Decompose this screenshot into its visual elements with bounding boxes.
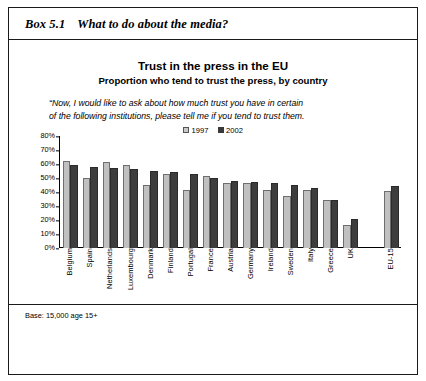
x-axis-label-cell: UK [341, 248, 361, 304]
bar-1997 [203, 176, 211, 247]
bar-1997 [63, 161, 71, 248]
bar-2002 [90, 167, 98, 248]
bar-1997 [243, 183, 251, 247]
bar-group [341, 136, 361, 248]
bar-group [200, 136, 220, 248]
chart-container: Trust in the press in the EU Proportion … [9, 59, 417, 304]
bar-group-spacer [361, 136, 381, 248]
x-axis-label-cell: Ireland [261, 248, 281, 304]
bar-group [261, 136, 281, 248]
bar-2002 [110, 168, 118, 248]
bar-1997 [83, 178, 91, 248]
x-axis-label-cell: Sweden [281, 248, 301, 304]
x-axis-label: Sweden [287, 248, 294, 275]
legend-label-1997: 1997 [192, 126, 209, 135]
bar-group [100, 136, 120, 248]
box-label: Box 5.1 [25, 17, 65, 31]
bar-2002 [311, 188, 319, 248]
x-axis-label: UK [347, 248, 354, 258]
x-axis-label: Spain [86, 248, 93, 267]
x-axis-label-cell: Netherlands [100, 248, 120, 304]
x-axis-label-cell: Belgium [60, 248, 80, 304]
bar-2002 [351, 219, 359, 248]
bar-2002 [271, 183, 279, 248]
y-axis-tick: 40% [40, 188, 55, 195]
x-axis-labels: BelgiumSpainNetherlandsLuxembourgDenmark… [60, 248, 401, 304]
box-heading: What to do about the media? [77, 17, 228, 31]
x-axis-label-cell: Denmark [140, 248, 160, 304]
bar-group [60, 136, 80, 248]
x-axis-label: Netherlands [106, 248, 113, 289]
quote-line-1: “Now, I would like to ask about how much… [49, 97, 395, 109]
x-axis-label-cell: Austria [221, 248, 241, 304]
y-axis-tick: 30% [40, 202, 55, 209]
bar-1997 [263, 190, 271, 247]
x-axis-label: Ireland [267, 248, 274, 271]
bar-1997 [123, 165, 131, 248]
bar-2002 [130, 169, 138, 247]
y-axis-tick: 0% [44, 244, 55, 251]
x-axis-label-cell: EU-15 [381, 248, 401, 304]
y-axis: 80%70%60%50%40%30%20%10%0% [33, 136, 59, 248]
x-axis-label-cell: Germany [241, 248, 261, 304]
bar-1997 [323, 200, 331, 248]
bar-1997 [283, 196, 291, 248]
x-axis-label: Austria [227, 248, 234, 272]
bar-2002 [391, 186, 399, 248]
bar-group [321, 136, 341, 248]
bar-2002 [291, 185, 299, 248]
x-axis-label-cell: Finland [160, 248, 180, 304]
bar-2002 [190, 174, 198, 248]
bar-group [180, 136, 200, 248]
x-axis-label: Greece [327, 248, 334, 273]
page-root: Box 5.1What to do about the media? Trust… [0, 0, 426, 381]
x-axis-label-cell: Italy [301, 248, 321, 304]
legend-item-1997: 1997 [183, 126, 208, 135]
x-axis-label: Denmark [147, 248, 154, 279]
survey-question-quote: “Now, I would like to ask about how much… [49, 97, 395, 122]
bar-2002 [170, 172, 178, 248]
x-axis-label: EU-15 [387, 248, 394, 269]
y-axis-tick: 80% [40, 132, 55, 139]
bar-2002 [150, 171, 158, 248]
y-axis-tick: 70% [40, 146, 55, 153]
x-axis-label-cell [361, 248, 381, 304]
chart-subtitle: Proportion who tend to trust the press, … [15, 75, 411, 87]
bar-2002 [251, 182, 259, 248]
x-axis-label-cell: France [200, 248, 220, 304]
bar-1997 [343, 225, 351, 247]
box-container: Box 5.1What to do about the media? Trust… [8, 7, 418, 375]
x-axis-label: Portugal [187, 248, 194, 276]
y-axis-tick: 10% [40, 230, 55, 237]
bar-1997 [163, 174, 171, 248]
bar-1997 [223, 183, 231, 248]
chart-title: Trust in the press in the EU [15, 59, 411, 73]
bar-1997 [183, 190, 191, 247]
x-axis-label: Finland [167, 248, 174, 273]
bar-1997 [384, 191, 392, 248]
bar-group [241, 136, 261, 248]
box-header: Box 5.1What to do about the media? [9, 8, 417, 39]
legend-swatch-2002-icon [218, 127, 224, 133]
bar-groups [60, 136, 401, 248]
x-axis-label: Belgium [66, 248, 73, 275]
bar-group [120, 136, 140, 248]
bar-2002 [70, 165, 78, 248]
bar-1997 [103, 162, 111, 247]
y-axis-tick: 60% [40, 160, 55, 167]
x-axis-label: France [207, 248, 214, 272]
quote-line-2: of the following institutions, please te… [49, 110, 395, 122]
legend-item-2002: 2002 [218, 126, 243, 135]
x-axis-label-cell: Greece [321, 248, 341, 304]
bar-2002 [231, 181, 239, 248]
plot-area: 80%70%60%50%40%30%20%10%0% [33, 136, 401, 248]
y-axis-tick: 50% [40, 174, 55, 181]
header-divider [9, 39, 417, 40]
bar-group [160, 136, 180, 248]
chart-legend: 1997 2002 [15, 126, 411, 135]
bar-group [221, 136, 241, 248]
bar-1997 [143, 185, 151, 248]
x-axis-label-cell: Spain [80, 248, 100, 304]
bar-group [80, 136, 100, 248]
bar-2002 [331, 200, 339, 248]
